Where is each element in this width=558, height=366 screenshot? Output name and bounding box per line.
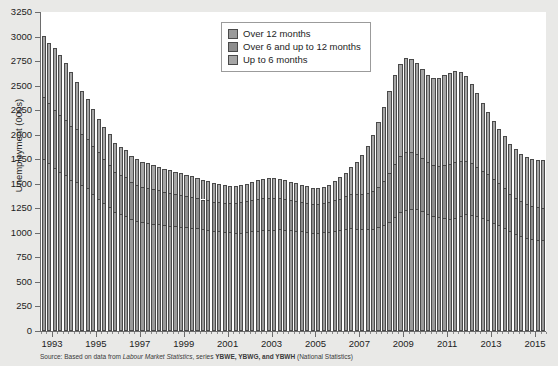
bar-segment	[190, 197, 194, 228]
bar-segment	[190, 176, 194, 197]
bar-segment	[124, 216, 128, 331]
bar-segment	[437, 217, 441, 331]
bar-segment	[338, 230, 342, 331]
bar-segment	[349, 194, 353, 228]
bar-segment	[366, 193, 370, 229]
x-tick-minor	[134, 332, 135, 334]
bar-segment	[168, 193, 172, 226]
x-tick-2005	[315, 332, 316, 337]
x-tick-minor	[541, 332, 542, 334]
x-tick-minor	[387, 332, 388, 334]
bar-segment	[530, 206, 534, 239]
bar-segment	[190, 228, 194, 331]
bar-segment	[426, 75, 430, 162]
bar-segment	[173, 226, 177, 331]
bar-segment	[530, 239, 534, 331]
bar-segment	[261, 230, 265, 331]
bar-segment	[338, 199, 342, 230]
bar-segment	[129, 219, 133, 331]
x-tick-minor	[200, 332, 201, 334]
bar-segment	[201, 200, 205, 230]
bar-segment	[393, 217, 397, 331]
bar-segment	[157, 167, 161, 191]
bar-segment	[366, 146, 370, 193]
bar-segment	[437, 166, 441, 218]
x-tick-minor	[288, 332, 289, 334]
bar-segment	[261, 179, 265, 198]
bar-segment	[53, 168, 57, 331]
bar-segment	[519, 154, 523, 202]
bar-segment	[256, 199, 260, 231]
x-tick-minor	[304, 332, 305, 334]
x-tick-minor	[255, 332, 256, 334]
bar-segment	[201, 180, 205, 200]
x-tick-minor	[173, 332, 174, 334]
bar-segment	[453, 218, 457, 331]
bar-segment	[212, 202, 216, 231]
bar-segment	[272, 178, 276, 198]
x-tick-label-2005: 2005	[305, 338, 326, 349]
x-tick-minor	[431, 332, 432, 334]
source-prefix: Source:	[40, 353, 62, 360]
bar-segment	[333, 181, 337, 200]
bar-segment	[47, 43, 51, 102]
bar-segment	[245, 184, 249, 202]
x-tick-minor	[337, 332, 338, 334]
bar-segment	[431, 165, 435, 216]
bar-segment	[371, 135, 375, 191]
legend-item-0[interactable]: Over 12 months	[228, 27, 361, 40]
x-tick-minor	[101, 332, 102, 334]
bar-segment	[234, 203, 238, 233]
bar-segment	[453, 71, 457, 162]
bar-segment	[157, 190, 161, 224]
legend-swatch-icon	[228, 55, 238, 65]
legend-swatch-icon	[228, 29, 238, 39]
x-tick-minor	[85, 332, 86, 334]
bar-segment	[311, 204, 315, 232]
bar-segment	[201, 229, 205, 331]
legend-item-1[interactable]: Over 6 and up to 12 months	[228, 40, 361, 53]
bar-segment	[398, 64, 402, 156]
bar-segment	[42, 159, 46, 331]
x-tick-2013	[491, 332, 492, 337]
bar-segment	[86, 139, 90, 189]
x-tick-minor	[167, 332, 168, 334]
bar-segment	[97, 152, 101, 198]
bar-segment	[64, 120, 68, 175]
bar-segment	[184, 196, 188, 227]
bar-segment	[140, 187, 144, 222]
bar-segment	[382, 181, 386, 225]
legend-item-2[interactable]: Up to 6 months	[228, 53, 361, 66]
bar-segment	[349, 228, 353, 331]
bar-segment	[536, 160, 540, 208]
x-tick-minor	[343, 332, 344, 334]
bar-segment	[256, 180, 260, 199]
x-tick-minor	[409, 332, 410, 334]
chart-figure: 0250500750100012501500175020002250250027…	[0, 0, 558, 366]
bar-segment	[415, 63, 419, 154]
x-tick-minor	[464, 332, 465, 334]
bar-segment	[503, 136, 507, 188]
bar-segment	[366, 229, 370, 331]
x-tick-minor	[222, 332, 223, 334]
legend-label: Over 6 and up to 12 months	[243, 41, 361, 52]
bar-segment	[86, 188, 90, 331]
bar-segment	[157, 224, 161, 331]
y-tick-label-1000: 1000	[0, 228, 32, 237]
bar-segment	[305, 186, 309, 203]
bar-segment	[360, 229, 364, 331]
bar-segment	[541, 160, 545, 209]
x-tick-minor	[79, 332, 80, 334]
bar-segment	[239, 202, 243, 232]
bar-segment	[420, 158, 424, 211]
bar-segment	[497, 225, 501, 331]
bar-segment	[162, 192, 166, 225]
x-tick-minor	[354, 332, 355, 334]
bar-segment	[382, 107, 386, 181]
bar-segment	[344, 229, 348, 331]
legend-label: Up to 6 months	[243, 54, 307, 65]
bar-segment	[437, 78, 441, 166]
bar-segment	[360, 155, 364, 194]
bar-segment	[140, 222, 144, 331]
x-tick-minor	[376, 332, 377, 334]
